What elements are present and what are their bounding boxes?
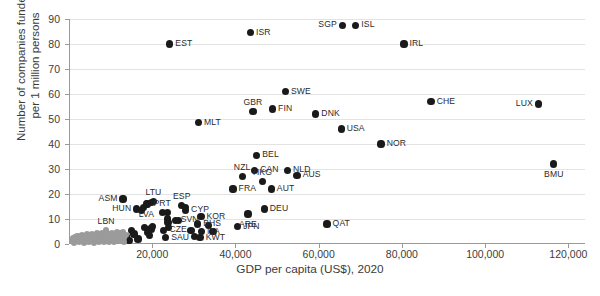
data-point-label-isl: ISL — [361, 20, 374, 29]
data-point-usa — [338, 125, 345, 132]
gridline-y — [69, 94, 585, 95]
y-tick-mark — [65, 19, 69, 20]
y-tick-mark — [65, 169, 69, 170]
x-tick-label: 120,000 — [533, 249, 600, 260]
data-point-label-est: EST — [175, 39, 192, 48]
data-point-label-svn: SVN — [181, 215, 199, 224]
data-point-label-bmu: BMU — [544, 170, 563, 179]
y-tick-mark — [65, 119, 69, 120]
y-tick-mark — [65, 144, 69, 145]
data-point-bmu — [550, 160, 557, 167]
gridline-y — [69, 69, 585, 70]
x-tick-label: 100,000 — [450, 249, 520, 260]
data-point-fra — [229, 185, 236, 192]
gridline-y — [69, 169, 585, 170]
data-point-label-ltu: LTU — [146, 188, 162, 197]
data-point-mlt — [195, 119, 202, 126]
data-point-isl — [352, 22, 359, 29]
data-point-label-asm: ASM — [99, 194, 118, 203]
y-tick-label: 20 — [30, 189, 60, 199]
x-axis-line — [69, 243, 585, 244]
data-point-label-mlt: MLT — [204, 118, 221, 127]
data-point-che — [427, 98, 434, 105]
data-point-nzl — [239, 173, 246, 180]
data-point-label-usa: USA — [347, 124, 365, 133]
data-point-label-irl: IRL — [410, 39, 424, 48]
data-point-nld — [284, 167, 291, 174]
data-point-label-fin: FIN — [278, 104, 292, 113]
gridline-y — [69, 144, 585, 145]
data-point-label-che: CHE — [437, 97, 455, 106]
data-point — [149, 223, 156, 230]
data-point-label-hkg: HKG — [253, 168, 272, 177]
x-tick-label: 20,000 — [117, 249, 187, 260]
data-point — [120, 229, 126, 235]
y-tick-label: 0 — [30, 239, 60, 249]
data-point-label-deu: DEU — [270, 204, 288, 213]
x-tick-label: 80,000 — [367, 249, 437, 260]
scatter-chart-figure: Number of companies funded per 1 million… — [0, 0, 600, 296]
data-point-are — [244, 210, 251, 217]
data-point-asm — [119, 195, 126, 202]
x-axis-label: GDP per capita (US$), 2020 — [150, 262, 470, 276]
data-point — [121, 239, 127, 245]
y-tick-label: 50 — [30, 114, 60, 124]
y-tick-mark — [65, 44, 69, 45]
y-tick-label: 40 — [30, 139, 60, 149]
y-tick-mark — [65, 244, 69, 245]
data-point-dnk — [312, 110, 319, 117]
y-tick-mark — [65, 69, 69, 70]
data-point-label-gbr: GBR — [243, 98, 262, 107]
plot-area: 0102030405060708090 20,00040,00060,00080… — [69, 19, 585, 244]
data-point-label-lva: LVA — [139, 210, 154, 219]
data-point-label-nzl: NZL — [234, 163, 251, 172]
data-point-label-kwt: KWT — [206, 233, 225, 242]
data-point-sgp — [339, 22, 346, 29]
data-point — [134, 235, 141, 242]
data-point-bel — [253, 152, 260, 159]
data-point-est — [166, 40, 173, 47]
data-point-isr — [247, 29, 254, 36]
data-point-fin — [269, 105, 276, 112]
data-point-label-lux: LUX — [516, 99, 533, 108]
data-point-label-isr: ISR — [256, 28, 271, 37]
data-point-nor — [377, 140, 384, 147]
data-point-label-sau: SAU — [171, 233, 189, 242]
y-axis-line — [69, 19, 70, 244]
data-point — [182, 204, 189, 211]
data-point-gbr — [249, 108, 256, 115]
data-point-label-bel: BEL — [262, 150, 279, 159]
data-point-aut — [268, 185, 275, 192]
y-tick-mark — [65, 94, 69, 95]
y-axis-label-line1: Number of companies funded — [15, 0, 29, 146]
data-point-irl — [400, 40, 407, 47]
y-tick-label: 10 — [30, 214, 60, 224]
data-point-qat — [323, 220, 330, 227]
data-point-label-aut: AUT — [277, 184, 295, 193]
data-point-label-esp: ESP — [173, 192, 191, 201]
data-point-label-prt: PRT — [154, 199, 171, 208]
y-tick-mark — [65, 219, 69, 220]
data-point-hkg — [259, 178, 266, 185]
y-tick-label: 80 — [30, 39, 60, 49]
data-point-label-jpn: JPN — [243, 222, 260, 231]
data-point — [146, 232, 153, 239]
data-point-lux — [535, 100, 542, 107]
y-tick-label: 30 — [30, 164, 60, 174]
gridline-y — [69, 44, 585, 45]
data-point-label-lbn: LBN — [98, 217, 115, 226]
data-point-label-swe: SWE — [291, 87, 311, 96]
y-tick-mark — [65, 194, 69, 195]
gridline-y — [69, 119, 585, 120]
data-point-label-dnk: DNK — [321, 109, 339, 118]
data-point-deu — [261, 205, 268, 212]
data-point-label-fra: FRA — [239, 184, 257, 193]
y-tick-label: 70 — [30, 64, 60, 74]
data-point-label-sgp: SGP — [318, 20, 336, 29]
data-point-sau — [162, 234, 169, 241]
data-point-swe — [282, 88, 289, 95]
x-tick-label: 40,000 — [200, 249, 270, 260]
data-point-label-qat: QAT — [333, 219, 350, 228]
y-tick-label: 60 — [30, 89, 60, 99]
data-point-label-aus: AUS — [303, 170, 321, 179]
